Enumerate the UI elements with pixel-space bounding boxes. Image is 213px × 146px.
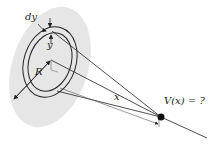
field-point [158,114,165,121]
x-distance-arrow [60,88,158,124]
potential-label: V(x) = ? [164,96,205,106]
x-label: x [114,92,120,102]
dy-label: dy [25,12,37,22]
y-label: y [47,40,53,50]
charged-disk [0,0,105,138]
disk-potential-diagram: dy y R x V(x) = ? [0,0,213,146]
r-label: R [35,67,43,77]
